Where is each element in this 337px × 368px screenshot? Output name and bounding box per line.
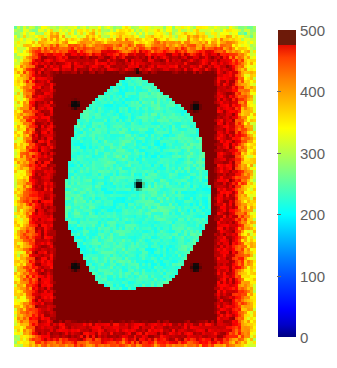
- heatmap-plot: [14, 26, 256, 347]
- colorbar-tick: [277, 91, 281, 92]
- colorbar-tick-label: 0: [300, 329, 308, 346]
- colorbar-tick: [277, 153, 281, 154]
- colorbar-tick-label: 400: [300, 83, 325, 100]
- colorbar-tick-label: 500: [300, 22, 325, 39]
- colorbar: [278, 30, 296, 337]
- colorbar-gradient: [278, 30, 296, 337]
- figure-root: 5004003002001000: [0, 0, 337, 368]
- colorbar-tick: [277, 214, 281, 215]
- heatmap-canvas: [14, 26, 256, 347]
- colorbar-tick-label: 100: [300, 267, 325, 284]
- colorbar-tick-label: 300: [300, 144, 325, 161]
- colorbar-tick: [277, 276, 281, 277]
- colorbar-tick-label: 200: [300, 206, 325, 223]
